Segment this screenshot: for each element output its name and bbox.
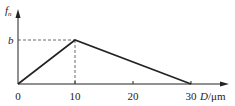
x-axis-label: D/μm (199, 90, 226, 102)
series-line (18, 40, 191, 84)
x-tick-label: 10 (70, 90, 82, 102)
y-axis-arrow-icon (16, 9, 21, 18)
y-tick-label-b: b (8, 34, 14, 46)
x-tick-label: 30 (186, 90, 198, 102)
y-axis-label: fn (5, 4, 12, 18)
x-axis-arrow-icon (220, 82, 229, 87)
chart: 0 10 20 30 b D/μm fn (0, 0, 235, 106)
x-tick-label: 0 (15, 90, 21, 102)
x-tick-label: 20 (128, 90, 140, 102)
